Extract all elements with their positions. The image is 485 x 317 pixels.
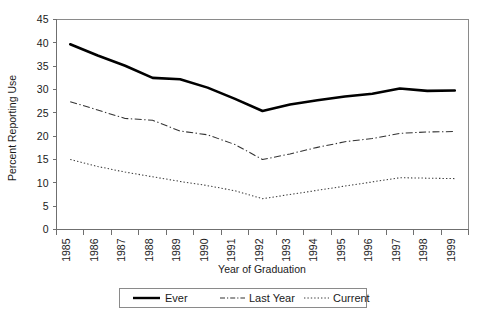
x-axis-tick-label: 1985 [60,238,72,262]
x-axis-tick-label: 1994 [307,238,319,262]
x-axis-tick-label: 1988 [143,238,155,262]
x-axis-tick-label: 1990 [198,238,210,262]
y-axis-title-text: Percent Reporting Use [6,75,18,181]
chart-container: Percent Reporting Use 051015202530354045… [0,0,485,317]
x-axis-tick-label: 1997 [390,238,402,262]
y-axis-tick-label: 40 [37,37,49,49]
x-axis-tick-label: 1995 [335,238,347,262]
y-axis-tick-label: 25 [37,107,49,119]
x-axis-tick-label: 1986 [88,238,100,262]
legend-label-last-year: Last Year [249,292,295,304]
y-axis-tick-label: 5 [43,200,49,212]
y-axis-tick-label: 35 [37,60,49,72]
x-axis-tick-label: 1992 [253,238,265,262]
y-axis-tick-label: 45 [37,13,49,25]
x-axis-tick-label: 1999 [445,238,457,262]
y-axis-tick-label: 15 [37,153,49,165]
x-axis-tick-label: 1991 [225,238,237,262]
legend-label-current: Current [333,292,370,304]
y-axis-tick-label: 0 [43,223,49,235]
x-axis-title: Year of Graduation [218,263,306,275]
y-axis-tick-label: 30 [37,83,49,95]
x-axis-tick-label: 1987 [115,238,127,262]
x-axis-tick-label: 1989 [170,238,182,262]
chart-legend: Ever Last Year Current [120,289,370,308]
y-axis-tick-label: 20 [37,130,49,142]
y-axis-tick-label: 10 [37,177,49,189]
legend-label-ever: Ever [165,292,188,304]
y-axis-title: Percent Reporting Use [6,75,18,181]
x-axis-tick-label: 1998 [417,238,429,262]
line-chart: Percent Reporting Use 051015202530354045… [0,0,485,317]
x-axis-tick-label: 1993 [280,238,292,262]
x-axis-title-text: Year of Graduation [218,263,306,275]
x-axis-tick-label: 1996 [362,238,374,262]
